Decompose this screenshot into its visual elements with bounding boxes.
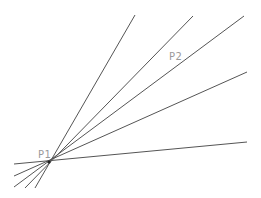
diagram-canvas: P1 P2 — [0, 0, 261, 198]
point-label-p2: P2 — [169, 52, 182, 62]
point-p1-marker — [47, 160, 50, 163]
point-label-p1: P1 — [38, 150, 51, 160]
lines-layer — [0, 0, 261, 198]
